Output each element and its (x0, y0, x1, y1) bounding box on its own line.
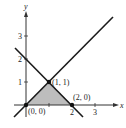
y-axis-label: y (23, 2, 28, 11)
x-axis-label: x (119, 101, 124, 110)
x-tick-label-2: 2 (70, 108, 74, 117)
point-label-origin: (0, 0) (28, 107, 46, 116)
point-2-0 (70, 103, 74, 107)
point-label-2-0: (2, 0) (73, 93, 91, 102)
y-tick-label-3: 3 (18, 32, 22, 41)
y-tick-label-2: 2 (18, 55, 22, 64)
y-axis-arrow-icon (24, 11, 28, 17)
coordinate-graph: x y 2 3 1 2 3 (0, 0) (1, 1) (2, 0) (0, 0, 126, 128)
x-tick-label-3: 3 (93, 108, 97, 117)
point-1-1 (47, 80, 51, 84)
point-label-1-1: (1, 1) (52, 78, 70, 87)
y-tick-label-1: 1 (18, 78, 22, 87)
x-axis-arrow-icon (113, 103, 119, 107)
